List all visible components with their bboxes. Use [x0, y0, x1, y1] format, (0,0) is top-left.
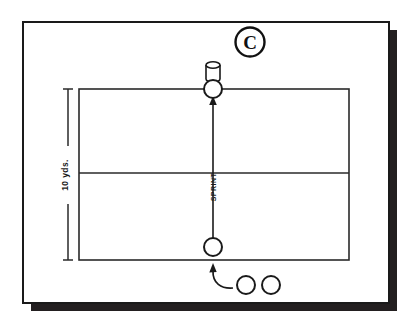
player-queue-2-marker — [262, 276, 280, 294]
sprint-label: SPRINT — [210, 172, 217, 201]
player-start-marker — [204, 238, 222, 256]
player-target-marker — [204, 80, 222, 98]
dimension-label: 10 yds. — [60, 159, 70, 191]
panel-badge-label: C — [243, 32, 257, 53]
drill-diagram-svg: C 10 yds. SPRINT — [0, 0, 414, 329]
equipment-bag-top — [206, 62, 220, 68]
panel-badge: C — [236, 28, 265, 57]
player-queue-1-marker — [237, 276, 255, 294]
drill-diagram-page: C 10 yds. SPRINT — [0, 0, 414, 329]
